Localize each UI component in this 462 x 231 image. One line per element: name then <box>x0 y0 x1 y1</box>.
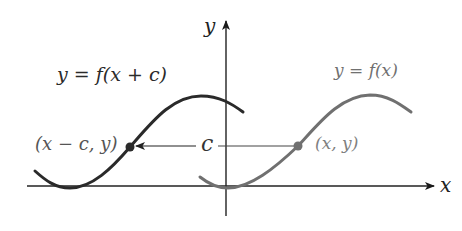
shifted-curve-label: y = f(x + c) <box>57 63 167 85</box>
original-point-dot <box>294 142 303 151</box>
y-axis-label: y <box>204 14 215 38</box>
shifted-point-label: (x − c, y) <box>35 133 117 154</box>
shift-amount-label: c <box>201 131 213 156</box>
shifted-point-dot <box>126 143 135 152</box>
diagram-canvas <box>0 0 462 231</box>
x-axis-label: x <box>440 173 451 197</box>
original-curve <box>200 95 411 188</box>
original-point-label: (x, y) <box>315 133 358 153</box>
original-curve-label: y = f(x) <box>334 60 398 80</box>
